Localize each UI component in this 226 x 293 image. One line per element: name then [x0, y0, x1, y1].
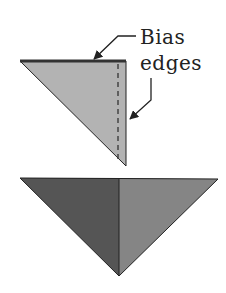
leader-arrow-top: [94, 36, 136, 59]
label-bias: Bias: [140, 25, 185, 49]
bottom-triangle: [20, 178, 218, 276]
label-edges: edges: [140, 51, 202, 75]
bias-edges-diagram: Bias edges: [0, 0, 226, 293]
leader-arrow-side: [130, 78, 151, 119]
top-triangle: [20, 61, 126, 166]
